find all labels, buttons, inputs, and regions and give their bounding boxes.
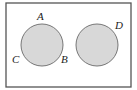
circle-left <box>21 24 63 66</box>
label-c: C <box>12 53 20 65</box>
circle-right <box>76 24 118 66</box>
label-b: B <box>61 53 68 65</box>
venn-diagram: A B C D <box>0 0 137 90</box>
label-a: A <box>36 10 44 22</box>
label-d: D <box>114 19 123 31</box>
